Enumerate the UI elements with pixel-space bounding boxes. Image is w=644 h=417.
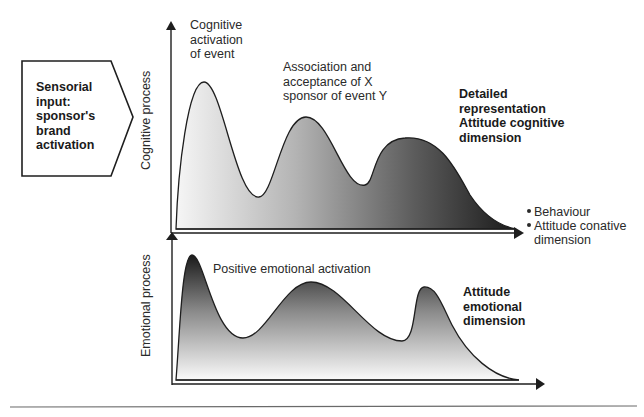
emotional-axis-label: Emotional process	[139, 254, 153, 357]
label-line: Cognitive	[190, 18, 243, 33]
input-line: input:	[36, 95, 95, 110]
bullet-icon	[527, 223, 531, 227]
input-line: sponsor's	[36, 109, 95, 124]
outcome-list: Behaviour Attitude conative dimension	[527, 205, 626, 247]
outcome-text: Attitude conative	[534, 219, 626, 233]
sensorial-input-label: Sensorial input: sponsor's brand activat…	[36, 80, 95, 153]
outcome-text-continuation: dimension	[527, 233, 626, 247]
bullet-icon	[527, 209, 531, 213]
emotional-peak3-label: Attitude emotional dimension	[463, 285, 526, 329]
label-line: Detailed	[459, 87, 565, 102]
label-line: sponsor of event Y	[283, 89, 387, 104]
label-line: representation	[459, 102, 565, 117]
label-line: activation	[190, 33, 243, 48]
arrowhead-icon	[536, 378, 545, 390]
label-line: of event	[190, 47, 243, 62]
label-line: dimension	[463, 314, 526, 329]
cognitive-peak3-label: Detailed representation Attitude cogniti…	[459, 87, 565, 145]
emotional-peak1-label: Positive emotional activation	[213, 262, 371, 277]
outcome-text: Behaviour	[534, 205, 590, 219]
label-line: Attitude cognitive	[459, 116, 565, 131]
input-line: Sensorial	[36, 80, 95, 95]
label-line: dimension	[459, 131, 565, 146]
cognitive-peak2-label: Association and acceptance of X sponsor …	[283, 60, 387, 104]
arrowhead-icon	[166, 21, 176, 30]
arrowhead-icon	[514, 227, 524, 239]
outcome-item: Behaviour	[527, 205, 626, 219]
label-line: Attitude	[463, 285, 526, 300]
input-line: brand	[36, 124, 95, 139]
bottom-rule	[10, 406, 637, 407]
label-line: Association and	[283, 60, 387, 75]
label-line: acceptance of X	[283, 75, 387, 90]
cognitive-peak1-label: Cognitive activation of event	[190, 18, 243, 62]
outcome-item: Attitude conative	[527, 219, 626, 233]
input-line: activation	[36, 138, 95, 153]
label-line: emotional	[463, 300, 526, 315]
cognitive-axis-label: Cognitive process	[139, 71, 153, 170]
